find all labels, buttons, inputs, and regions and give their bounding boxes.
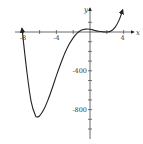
function-graph: xy-8-44-400-800 [0,0,143,144]
function-curve [22,10,123,117]
x-tick-label: 4 [121,34,125,42]
tick-labels: xy-8-44-400-800 [20,6,140,114]
x-tick-label: -4 [53,34,59,42]
curve [22,10,123,117]
x-axis-label: x [136,29,140,37]
y-axis-label: y [83,6,89,14]
y-tick-label: -800 [72,106,87,114]
y-tick-label: -400 [72,67,87,75]
